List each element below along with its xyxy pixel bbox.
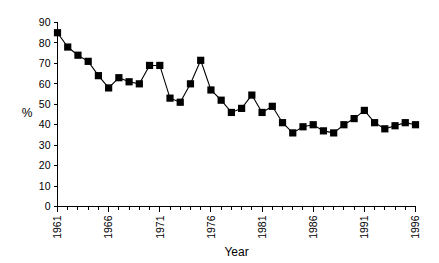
- data-point-marker: [177, 99, 184, 106]
- y-tick-label: 0: [45, 200, 51, 212]
- data-point-marker: [330, 129, 337, 136]
- data-point-marker: [402, 119, 409, 126]
- y-tick-label: 30: [39, 139, 51, 151]
- data-point-marker: [391, 122, 398, 129]
- data-point-marker: [228, 109, 235, 116]
- data-point-marker: [412, 121, 419, 128]
- y-axis-title: %: [22, 106, 33, 120]
- line-chart: 0102030405060708090 19611966197119761981…: [0, 0, 439, 263]
- data-point-marker: [279, 119, 286, 126]
- data-point-marker: [351, 115, 358, 122]
- data-point-marker: [146, 62, 153, 69]
- data-point-marker: [218, 97, 225, 104]
- data-point-marker: [85, 58, 92, 65]
- data-point-marker: [320, 127, 327, 134]
- y-tick-label: 80: [39, 37, 51, 49]
- x-tick-label: 1986: [307, 215, 319, 239]
- x-tick-label: 1976: [205, 215, 217, 239]
- data-point-marker: [54, 29, 61, 36]
- data-point-marker: [95, 72, 102, 79]
- data-point-marker: [310, 121, 317, 128]
- data-point-marker: [136, 80, 143, 87]
- chart-container: 0102030405060708090 19611966197119761981…: [0, 0, 439, 263]
- data-point-marker: [238, 105, 245, 112]
- x-tick-label: 1961: [51, 215, 63, 239]
- data-point-marker: [381, 125, 388, 132]
- data-point-marker: [207, 86, 214, 93]
- data-point-marker: [197, 57, 204, 64]
- data-point-marker: [289, 129, 296, 136]
- data-point-marker: [187, 80, 194, 87]
- data-point-marker: [105, 84, 112, 91]
- data-point-marker: [340, 121, 347, 128]
- data-point-marker: [371, 119, 378, 126]
- x-tick-label: 1996: [409, 215, 421, 239]
- x-tick-label: 1971: [154, 215, 166, 239]
- data-point-marker: [248, 91, 255, 98]
- data-point-marker: [361, 107, 368, 114]
- data-point-marker: [258, 109, 265, 116]
- y-tick-label: 70: [39, 57, 51, 69]
- x-axis: 19611966197119761981198619911996: [51, 207, 421, 239]
- data-point-marker: [64, 43, 71, 50]
- data-point-marker: [299, 123, 306, 130]
- x-tick-label: 1981: [256, 215, 268, 239]
- x-tick-label: 1966: [102, 215, 114, 239]
- data-point-marker: [156, 62, 163, 69]
- data-point-marker: [166, 95, 173, 102]
- x-tick-label: 1991: [358, 215, 370, 239]
- x-axis-title: Year: [224, 245, 248, 259]
- y-tick-label: 50: [39, 98, 51, 110]
- data-point-marker: [269, 103, 276, 110]
- data-point-marker: [115, 74, 122, 81]
- y-tick-label: 20: [39, 159, 51, 171]
- data-series: [54, 29, 419, 136]
- y-tick-label: 10: [39, 180, 51, 192]
- data-point-marker: [126, 78, 133, 85]
- y-tick-label: 40: [39, 118, 51, 130]
- y-tick-label: 90: [39, 16, 51, 28]
- data-point-marker: [74, 52, 81, 59]
- series-polyline: [58, 33, 416, 133]
- y-tick-label: 60: [39, 78, 51, 90]
- y-axis: 0102030405060708090: [39, 16, 58, 212]
